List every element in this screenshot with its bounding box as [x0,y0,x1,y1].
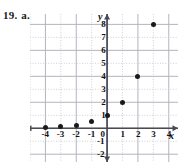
x-tick-label--1: -1 [88,130,96,139]
figure-panel: 19.a. -4-3-2-101234-2-112345678xy [0,0,179,168]
x-tick-label-2: 2 [136,130,141,139]
problem-label: 19.a. [3,9,30,21]
x-tick-label--4: -4 [41,130,49,139]
y-tick-label-7: 7 [101,33,106,42]
y-tick-label--1: -1 [97,137,105,146]
y-tick-label-4: 4 [101,72,106,81]
problem-part: a. [21,9,30,21]
y-tick-label--2: -2 [97,150,105,159]
x-tick-label-1: 1 [121,130,126,139]
x-tick-label-3: 3 [151,130,156,139]
y-tick-label-6: 6 [101,46,106,55]
problem-number: 19. [3,9,17,21]
y-axis-label: y [98,12,102,22]
y-tick-label-1: 1 [101,111,106,120]
x-tick-label--3: -3 [57,130,65,139]
x-tick-label--2: -2 [72,130,80,139]
coordinate-plane: -4-3-2-101234-2-112345678xy [30,14,178,162]
y-tick-label-5: 5 [101,59,106,68]
y-tick-label-2: 2 [101,98,106,107]
y-tick-label-3: 3 [101,85,106,94]
x-axis-label: x [169,131,174,141]
axis-tick-labels: -4-3-2-101234-2-112345678xy [30,14,178,162]
